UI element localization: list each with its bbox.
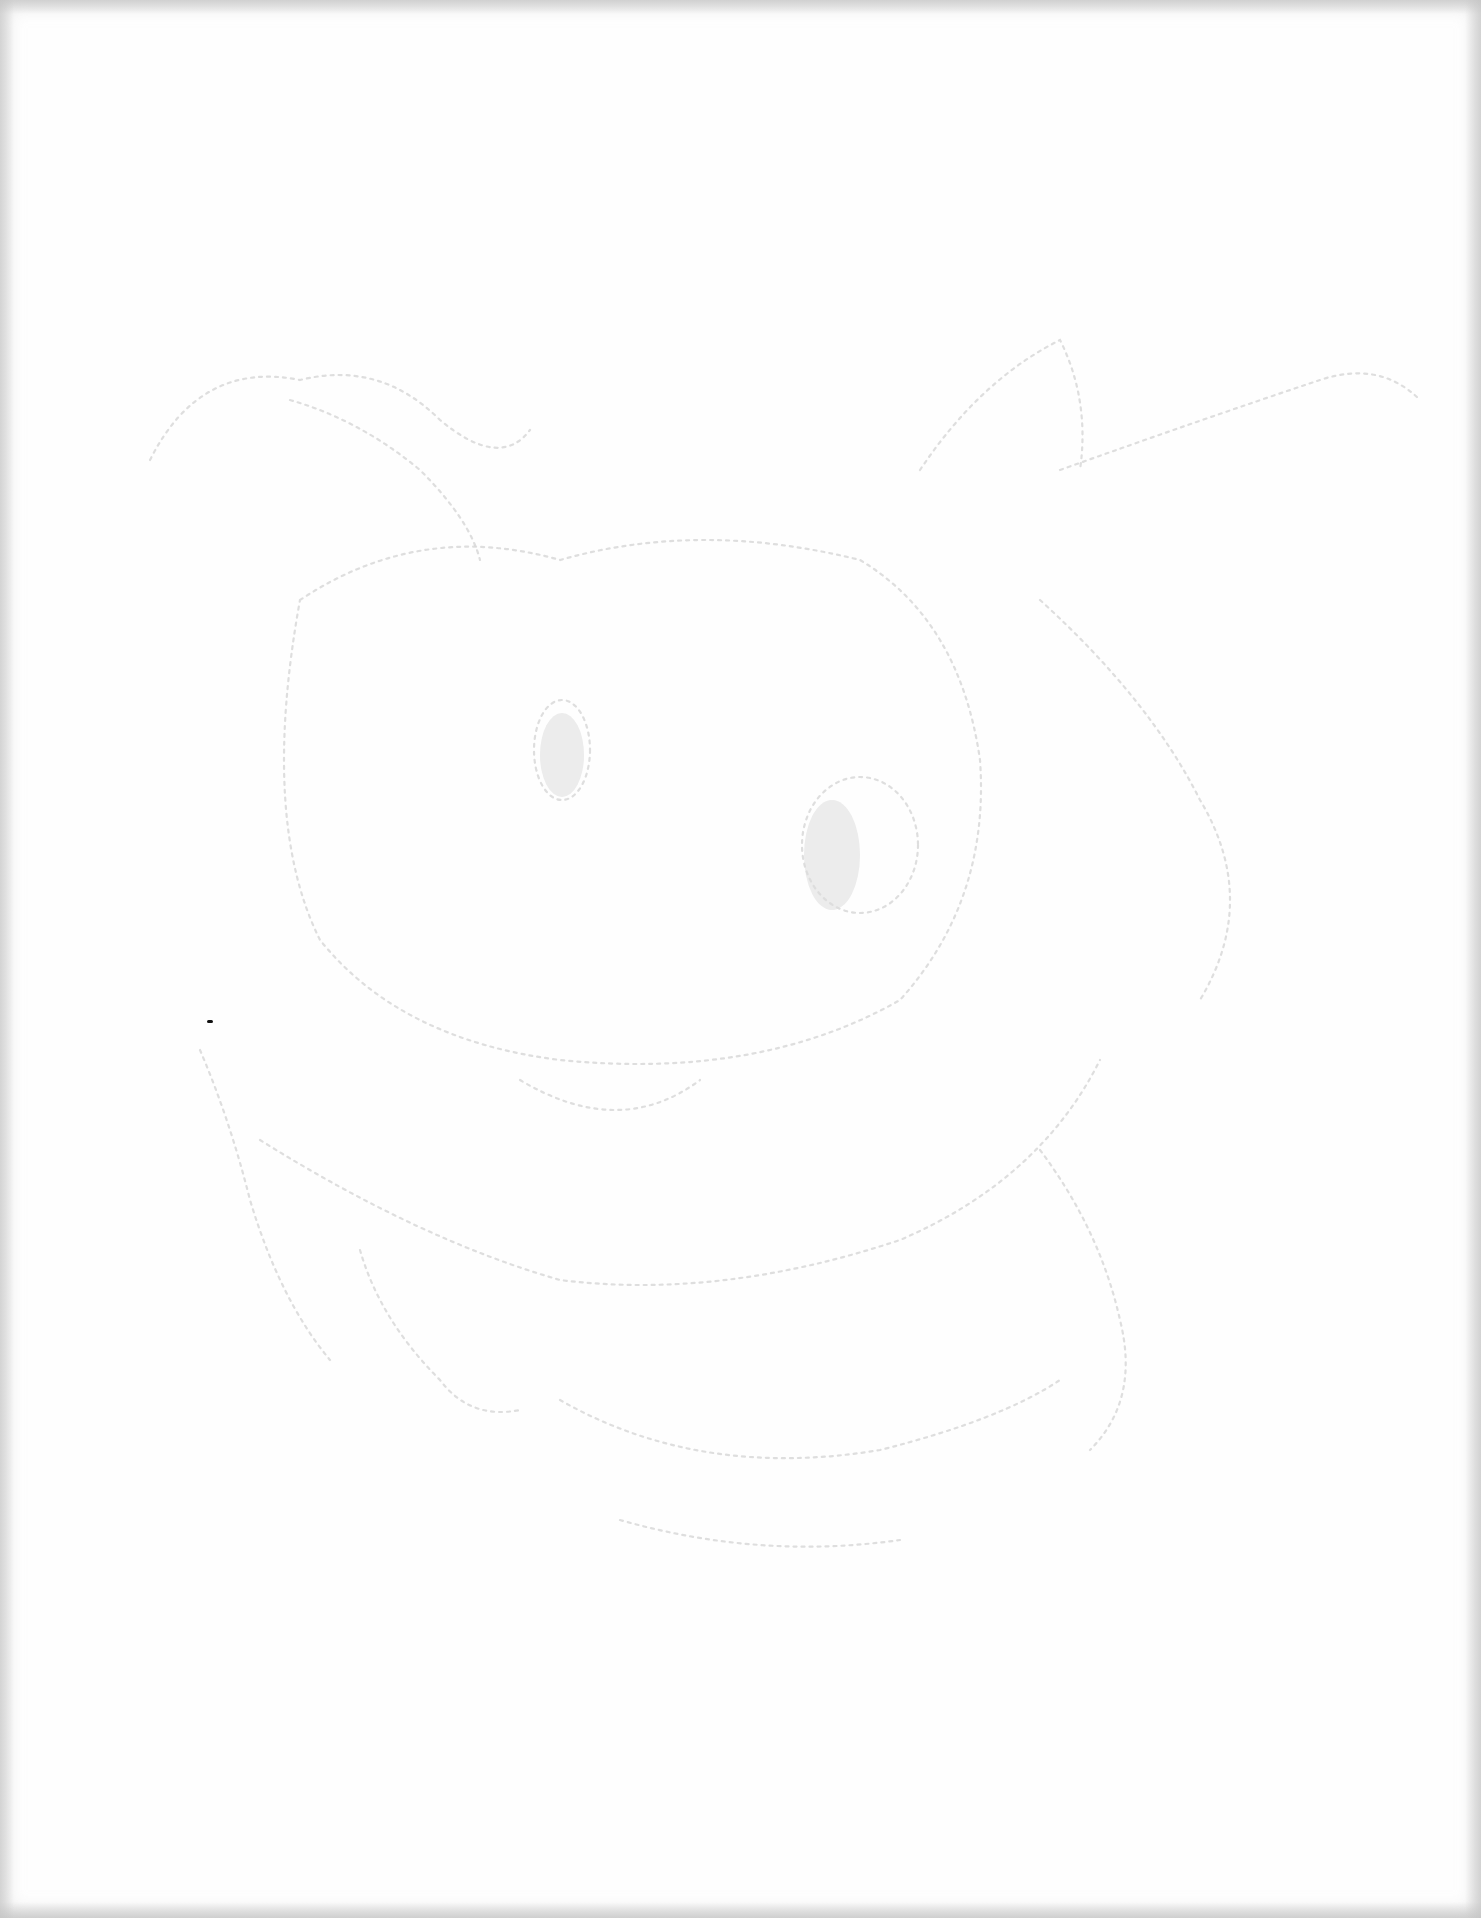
right-side-curve [1040, 600, 1230, 1000]
face-outline [284, 540, 981, 1064]
left-ear-inner [290, 400, 480, 560]
left-arm-stroke [200, 1050, 330, 1360]
pencil-speck [207, 1020, 213, 1023]
body-bottom [620, 1520, 900, 1547]
right-limb-stroke [1040, 1150, 1126, 1450]
right-hair-shape [1060, 373, 1420, 470]
left-eye-shading [540, 713, 584, 797]
faint-pencil-sketch [0, 0, 1481, 1918]
right-eye-shading [804, 800, 860, 910]
paper-sheet [0, 0, 1481, 1918]
mouth-curve [520, 1080, 700, 1110]
left-ear-shape [150, 375, 530, 460]
right-ear-shape [920, 340, 1083, 470]
body-inner-left [360, 1250, 520, 1412]
body-lower [560, 1380, 1060, 1458]
